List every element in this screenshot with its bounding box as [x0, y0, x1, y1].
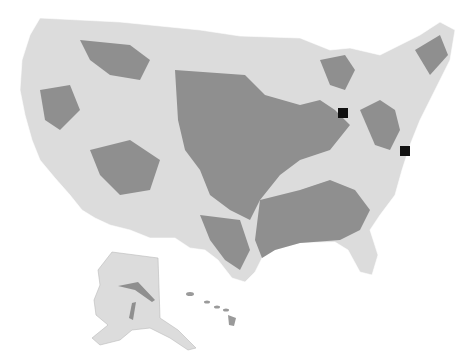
- marker-michigan-ohio: [338, 108, 348, 118]
- us-map: [0, 0, 475, 359]
- marker-mid-atlantic: [400, 146, 410, 156]
- hawaii-inset: [186, 292, 236, 326]
- alaska-inset: [92, 252, 196, 350]
